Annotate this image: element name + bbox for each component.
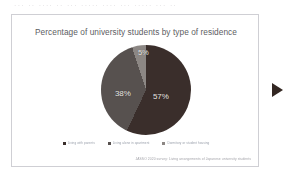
- presentation-slide: Percentage of university students by typ…: [11, 14, 259, 167]
- legend-item-living-with-parents: Living with parents: [63, 141, 95, 145]
- cut-off-top-text: ··· ·· ···· ·· ··· ····· ···· ··· ····· …: [0, 0, 289, 11]
- pie-slice-label-living-alone: 38%: [115, 89, 131, 98]
- next-slide-arrow-icon[interactable]: [272, 83, 283, 97]
- pie-chart: 57% 38% 5%: [101, 45, 191, 135]
- legend-swatch-icon: [108, 142, 111, 145]
- chart-legend: Living with parents Living alone in apar…: [12, 141, 260, 145]
- legend-item-dormitory: Dormitory or student housing: [162, 141, 209, 145]
- source-caption: JASSO 2020 survey: Living arrangements o…: [136, 157, 252, 161]
- pie-slice-label-dormitory: 5%: [138, 48, 149, 57]
- legend-label: Living with parents: [68, 141, 95, 145]
- legend-item-living-alone: Living alone in apartment: [108, 141, 150, 145]
- legend-swatch-icon: [162, 142, 165, 145]
- chart-title: Percentage of university students by typ…: [12, 27, 260, 37]
- legend-label: Dormitory or student housing: [167, 141, 209, 145]
- pie-slice-label-living-with-parents: 57%: [153, 92, 169, 101]
- legend-label: Living alone in apartment: [113, 141, 150, 145]
- legend-swatch-icon: [63, 142, 66, 145]
